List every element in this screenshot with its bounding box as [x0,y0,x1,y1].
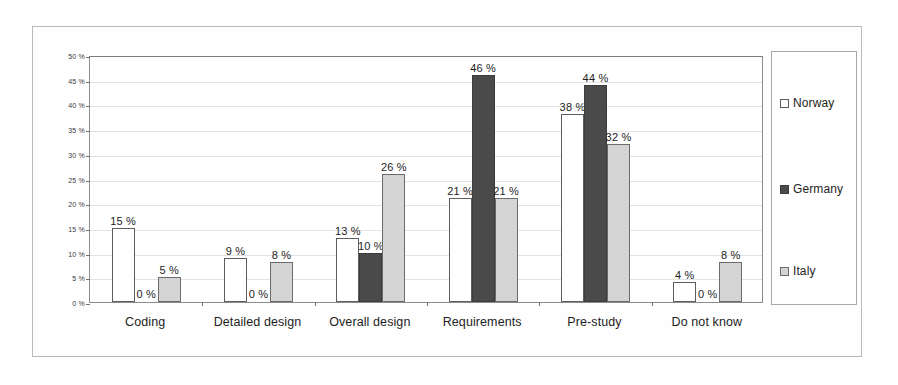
x-category-label: Do not know [672,315,743,329]
x-axis-tick [427,302,428,306]
bar-group: 15 %0 %5 % [112,57,181,302]
bar-value-label: 21 % [493,186,519,197]
legend-swatch-icon [780,267,789,276]
legend-swatch-icon [780,185,789,194]
legend-item-norway[interactable]: Norway [780,96,834,110]
bar-value-label: 44 % [583,73,609,84]
x-category-label: Requirements [443,315,522,329]
y-tick-label: 0 % [72,300,85,307]
bar[interactable]: 10 % [359,253,382,302]
bar-group: 13 %10 %26 % [336,57,405,302]
bar-value-label: 32 % [606,132,632,143]
x-category-label: Pre-study [567,315,621,329]
legend-swatch-icon [780,99,789,108]
y-tick-label: 35 % [68,127,85,134]
x-axis-tick [539,302,540,306]
bar-value-label: 8 % [721,250,741,261]
bar-value-label: 10 % [358,241,384,252]
chart-legend: NorwayGermanyItaly [771,51,857,305]
plot-area: 15 %0 %5 %9 %0 %8 %13 %10 %26 %21 %46 %2… [89,56,763,303]
x-axis-category-labels: CodingDetailed designOverall designRequi… [89,315,763,337]
bar-value-label: 26 % [381,162,407,173]
x-axis-tick [202,302,203,306]
y-tick-label: 20 % [68,201,85,208]
bar[interactable]: 26 % [382,174,405,302]
y-tick-label: 30 % [68,151,85,158]
y-tick-label: 45 % [68,77,85,84]
x-category-label: Coding [125,315,165,329]
bar-group: 4 %0 %8 % [673,57,742,302]
y-tick-label: 5 % [72,275,85,282]
bar-value-label: 13 % [335,226,361,237]
bar-value-label: 15 % [110,216,136,227]
bar[interactable]: 38 % [561,114,584,302]
bar[interactable]: 9 % [224,258,247,302]
legend-label: Germany [793,182,843,196]
bar-value-label: 0 % [249,289,269,300]
bar[interactable]: 5 % [158,277,181,302]
bar-value-label: 38 % [560,102,586,113]
y-tick-label: 50 % [68,53,85,60]
bar[interactable]: 32 % [607,144,630,302]
bar-value-label: 9 % [226,246,246,257]
bar[interactable]: 15 % [112,228,135,302]
chart-figure-frame: 0 %5 %10 %15 %20 %25 %30 %35 %40 %45 %50… [32,26,862,357]
y-tick-label: 10 % [68,250,85,257]
y-axis-tick [86,304,90,305]
x-category-label: Detailed design [214,315,302,329]
y-tick-label: 25 % [68,176,85,183]
bar-group: 38 %44 %32 % [561,57,630,302]
bar[interactable]: 8 % [719,262,742,302]
bar-value-label: 0 % [698,289,718,300]
plot-wrapper: 0 %5 %10 %15 %20 %25 %30 %35 %40 %45 %50… [89,56,763,303]
bar-value-label: 21 % [447,186,473,197]
y-tick-label: 15 % [68,225,85,232]
bar[interactable]: 4 % [673,282,696,302]
legend-label: Italy [793,264,816,278]
bar[interactable]: 44 % [584,85,607,302]
legend-item-italy[interactable]: Italy [780,264,816,278]
bars-layer: 15 %0 %5 %9 %0 %8 %13 %10 %26 %21 %46 %2… [90,57,762,302]
bar-value-label: 4 % [675,270,695,281]
bar[interactable]: 46 % [472,75,495,302]
x-axis-tick [652,302,653,306]
bar[interactable]: 21 % [495,198,518,302]
y-axis: 0 %5 %10 %15 %20 %25 %30 %35 %40 %45 %50… [55,56,85,303]
legend-item-germany[interactable]: Germany [780,182,843,196]
bar[interactable]: 21 % [449,198,472,302]
bar-group: 21 %46 %21 % [449,57,518,302]
bar-value-label: 46 % [470,63,496,74]
legend-label: Norway [793,96,834,110]
bar[interactable]: 13 % [336,238,359,302]
x-axis-tick [315,302,316,306]
y-tick-label: 40 % [68,102,85,109]
bar-value-label: 8 % [272,250,292,261]
bar-value-label: 0 % [136,289,156,300]
bar-group: 9 %0 %8 % [224,57,293,302]
bar[interactable]: 8 % [270,262,293,302]
x-category-label: Overall design [329,315,410,329]
bar-value-label: 5 % [159,265,179,276]
